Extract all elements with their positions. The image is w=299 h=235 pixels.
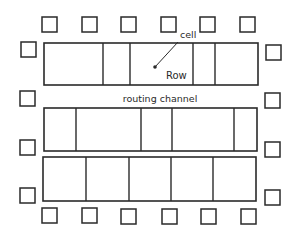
io-pad-right: [265, 142, 280, 157]
routing-channel-label: routing channel: [123, 93, 198, 104]
row-1: [44, 43, 258, 85]
standard-cell-layout-diagram: cell Row routing channel: [0, 0, 299, 235]
io-pads: [20, 17, 281, 224]
io-pad-top: [200, 17, 215, 32]
io-pad-left: [20, 140, 35, 155]
io-pad-right: [266, 45, 281, 60]
io-pad-bottom: [82, 208, 97, 223]
row-outline: [43, 157, 256, 201]
io-pad-top: [240, 17, 255, 32]
cell-marker-dot: [153, 65, 157, 69]
io-pad-right: [265, 93, 280, 108]
io-pad-right: [265, 190, 280, 205]
row-label: Row: [166, 70, 187, 81]
io-pad-bottom: [121, 209, 136, 224]
io-pad-bottom: [162, 209, 177, 224]
io-pad-bottom: [42, 208, 57, 223]
cell-leader-line: [155, 42, 178, 67]
io-pad-bottom: [201, 209, 216, 224]
io-pad-left: [20, 91, 35, 106]
row-2: [44, 108, 257, 151]
io-pad-left: [20, 188, 35, 203]
cell-annotation: [153, 42, 178, 69]
io-pad-top: [161, 17, 176, 32]
io-pad-top: [121, 17, 136, 32]
row-3: [43, 157, 256, 201]
row-outline: [44, 43, 258, 85]
cell-label: cell: [180, 29, 196, 40]
io-pad-bottom: [241, 209, 256, 224]
io-pad-left: [21, 42, 36, 57]
io-pad-top: [42, 17, 57, 32]
io-pad-top: [82, 17, 97, 32]
cell-rows: [43, 43, 258, 201]
